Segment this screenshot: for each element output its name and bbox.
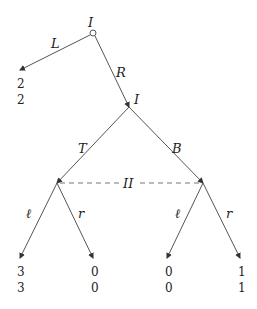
edge-B-r bbox=[203, 183, 240, 258]
root-node bbox=[90, 30, 96, 36]
edge-label-B: B bbox=[171, 141, 182, 156]
information-set-label: II bbox=[122, 176, 134, 191]
payoff-Bl-player1: 0 bbox=[165, 265, 173, 279]
edge-T bbox=[57, 107, 129, 183]
edge-label-T-r: r bbox=[78, 206, 85, 221]
payoff-L-player2: 2 bbox=[17, 93, 25, 107]
edge-B bbox=[129, 107, 203, 183]
payoff-Br-player1: 1 bbox=[238, 265, 246, 279]
edge-label-L: L bbox=[50, 36, 60, 51]
edge-label-T-l: ℓ bbox=[26, 206, 32, 221]
payoff-Tl-player1: 3 bbox=[17, 265, 25, 279]
edge-label-R: R bbox=[115, 65, 126, 80]
node-player-label: I bbox=[133, 92, 140, 107]
edge-B-l bbox=[167, 183, 203, 258]
edge-label-T: T bbox=[78, 141, 88, 156]
payoff-Tr-player1: 0 bbox=[91, 265, 99, 279]
root-player-label: I bbox=[87, 15, 94, 30]
edge-label-B-r: r bbox=[226, 206, 233, 221]
edge-label-B-l: ℓ bbox=[175, 206, 181, 221]
payoff-Bl-player2: 0 bbox=[165, 281, 173, 295]
edge-T-r bbox=[57, 183, 93, 258]
payoff-Br-player2: 1 bbox=[238, 281, 246, 295]
payoff-L-player1: 2 bbox=[17, 77, 25, 91]
game-tree: I I II L R T B ℓ r ℓ r 2 2 3 3 0 0 0 0 1… bbox=[0, 0, 257, 309]
payoff-Tl-player2: 3 bbox=[17, 281, 25, 295]
payoff-Tr-player2: 0 bbox=[91, 281, 99, 295]
